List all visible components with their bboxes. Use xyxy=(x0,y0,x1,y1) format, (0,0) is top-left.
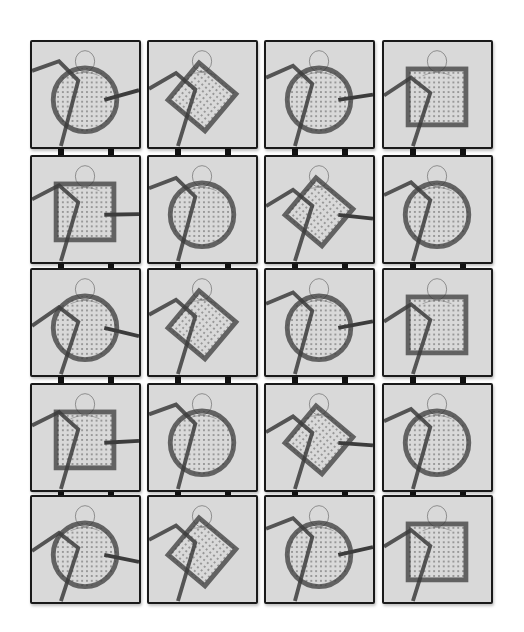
art-panel xyxy=(264,495,375,604)
art-panel xyxy=(382,155,493,264)
art-panel xyxy=(264,155,375,264)
art-panel xyxy=(147,40,258,149)
art-panel xyxy=(147,383,258,492)
art-panel xyxy=(147,495,258,604)
art-panel xyxy=(382,383,493,492)
art-panel xyxy=(382,495,493,604)
artwork-grid xyxy=(0,0,524,632)
art-panel xyxy=(147,268,258,377)
art-panel xyxy=(30,268,141,377)
art-panel xyxy=(264,268,375,377)
art-panel xyxy=(147,155,258,264)
art-panel xyxy=(264,383,375,492)
art-panel xyxy=(30,495,141,604)
art-panel xyxy=(30,40,141,149)
art-panel xyxy=(30,155,141,264)
art-panel xyxy=(382,40,493,149)
art-panel xyxy=(264,40,375,149)
art-panel xyxy=(382,268,493,377)
art-panel xyxy=(30,383,141,492)
